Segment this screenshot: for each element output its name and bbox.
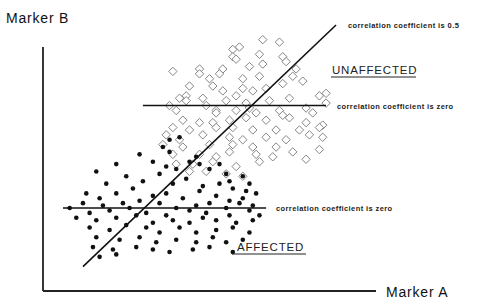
affected-point bbox=[247, 230, 252, 235]
label-affected: AFFECTED bbox=[237, 241, 304, 253]
unaffected-point bbox=[295, 126, 303, 134]
affected-point bbox=[114, 162, 119, 167]
unaffected-point bbox=[272, 143, 280, 151]
affected-point bbox=[151, 247, 156, 252]
affected-point bbox=[194, 240, 199, 245]
unaffected-point bbox=[285, 94, 293, 102]
unaffected-point bbox=[302, 155, 310, 163]
unaffected-point bbox=[219, 87, 227, 95]
affected-point bbox=[211, 235, 216, 240]
affected-point bbox=[181, 196, 186, 201]
unaffected-point bbox=[255, 50, 263, 58]
affected-point bbox=[194, 203, 199, 208]
affected-point bbox=[207, 201, 212, 206]
affected-point bbox=[174, 237, 179, 242]
affected-point bbox=[137, 235, 142, 240]
regression-line bbox=[83, 25, 336, 267]
affected-point bbox=[157, 201, 162, 206]
affected-point bbox=[224, 172, 229, 177]
affected-point bbox=[114, 252, 119, 257]
unaffected-point bbox=[299, 77, 307, 85]
affected-point bbox=[101, 203, 106, 208]
affected-point bbox=[214, 218, 219, 223]
affected-point bbox=[234, 220, 239, 225]
unaffected-point bbox=[185, 82, 193, 90]
affected-point bbox=[231, 225, 236, 230]
affected-point bbox=[244, 189, 249, 194]
affected-point bbox=[124, 174, 129, 179]
affected-point bbox=[91, 245, 96, 250]
affected-point bbox=[164, 213, 169, 218]
affected-point bbox=[114, 216, 119, 221]
affected-point bbox=[137, 198, 142, 203]
unaffected-point bbox=[239, 75, 247, 83]
unaffected-point bbox=[222, 96, 230, 104]
affected-point bbox=[167, 137, 172, 142]
annotation-corr-zero-upper: correlation coefficient is zero bbox=[337, 102, 454, 111]
affected-point bbox=[174, 167, 179, 172]
affected-point bbox=[94, 218, 99, 223]
affected-point bbox=[144, 211, 149, 216]
affected-point bbox=[237, 201, 242, 206]
unaffected-point bbox=[282, 136, 290, 144]
affected-point bbox=[214, 228, 219, 233]
affected-point bbox=[144, 225, 149, 230]
unaffected-point bbox=[245, 62, 253, 70]
affected-point bbox=[97, 196, 102, 201]
affected-point bbox=[247, 181, 252, 186]
y-axis-label: Marker B bbox=[6, 10, 69, 26]
affected-point bbox=[134, 245, 139, 250]
affected-point bbox=[154, 240, 159, 245]
label-unaffected: UNAFFECTED bbox=[332, 64, 417, 76]
affected-point bbox=[87, 225, 92, 230]
unaffected-point bbox=[259, 35, 267, 43]
unaffected-point bbox=[179, 116, 187, 124]
affected-point bbox=[177, 225, 182, 230]
unaffected-point bbox=[195, 118, 203, 126]
unaffected-point bbox=[252, 109, 260, 117]
affected-point bbox=[217, 162, 222, 167]
affected-point bbox=[191, 247, 196, 252]
unaffected-point bbox=[265, 96, 273, 104]
affected-point bbox=[254, 191, 259, 196]
affected-point bbox=[197, 162, 202, 167]
affected-point bbox=[151, 220, 156, 225]
affected-point bbox=[131, 186, 136, 191]
affected-point bbox=[171, 218, 176, 223]
affected-point bbox=[187, 220, 192, 225]
annotation-corr-05: correlation coefficient is 0.5 bbox=[348, 21, 459, 30]
unaffected-point bbox=[262, 116, 270, 124]
unaffected-point bbox=[169, 123, 177, 131]
affected-point bbox=[201, 184, 206, 189]
affected-point bbox=[107, 208, 112, 213]
affected-point bbox=[204, 211, 209, 216]
unaffected-point bbox=[315, 145, 323, 153]
affected-point bbox=[161, 145, 166, 150]
annotation-corr-zero-lower: correlation coefficient is zero bbox=[276, 204, 393, 213]
affected-point bbox=[94, 169, 99, 174]
unaffected-point bbox=[172, 106, 180, 114]
affected-point bbox=[194, 230, 199, 235]
unaffected-point bbox=[319, 133, 327, 141]
affected-point bbox=[214, 194, 219, 199]
unaffected-point bbox=[272, 126, 280, 134]
affected-point bbox=[114, 191, 119, 196]
affected-point bbox=[164, 191, 169, 196]
affected-point bbox=[164, 164, 169, 169]
affected-point bbox=[201, 216, 206, 221]
unaffected-point bbox=[279, 79, 287, 87]
affected-point bbox=[224, 240, 229, 245]
unaffected-point bbox=[262, 133, 270, 141]
affected-point bbox=[257, 213, 262, 218]
affected-point bbox=[184, 176, 189, 181]
unaffected-point bbox=[239, 84, 247, 92]
affected-point bbox=[227, 179, 232, 184]
affected-point bbox=[97, 255, 102, 260]
unaffected-point bbox=[259, 60, 267, 68]
unaffected-point bbox=[249, 126, 257, 134]
x-axis-label: Marker A bbox=[386, 284, 448, 300]
affected-point bbox=[87, 211, 92, 216]
unaffected-point bbox=[239, 136, 247, 144]
affected-point bbox=[207, 167, 212, 172]
unaffected-point bbox=[169, 67, 177, 75]
